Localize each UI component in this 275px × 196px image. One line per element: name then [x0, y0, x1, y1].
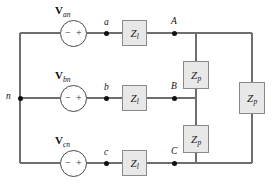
voltage-source-vbn-label: Vbn — [55, 70, 70, 81]
vcn-symbol: V — [55, 134, 63, 146]
node-dot-a — [104, 31, 109, 36]
impedance-box-zp-ca: Zp — [239, 82, 265, 114]
voltage-source-vcn-label: Vcn — [55, 135, 70, 146]
node-label-load-b: B — [171, 82, 177, 92]
node-dot-neutral — [18, 96, 23, 101]
voltage-source-van: − + — [60, 20, 87, 47]
node-label-b: b — [104, 83, 109, 93]
node-label-a: a — [104, 18, 109, 28]
circuit-diagram: − + Van − + Vbn − + Vcn Zl Zl Zl Zp — [0, 0, 275, 196]
zp-ca-label: Zp — [247, 93, 257, 104]
impedance-box-zl-b: Zl — [122, 85, 147, 111]
zp-ab-label: Zp — [191, 70, 201, 81]
impedance-box-zp-ab: Zp — [183, 61, 209, 89]
zl-b-label: Zl — [130, 93, 138, 104]
vcn-minus-sign: − — [65, 158, 71, 168]
zl-a-symbol: Z — [130, 27, 136, 39]
impedance-box-zl-a: Zl — [122, 20, 147, 46]
node-dot-c — [104, 161, 109, 166]
node-label-neutral: n — [6, 92, 11, 102]
zp-bc-label: Zp — [191, 134, 201, 145]
vbn-symbol: V — [55, 69, 63, 81]
vcn-plus-sign: + — [76, 158, 82, 168]
van-subscript: an — [63, 10, 71, 19]
node-label-load-a: A — [171, 17, 177, 27]
zl-a-label: Zl — [130, 28, 138, 39]
voltage-source-van-label: Van — [55, 5, 70, 16]
zl-c-symbol: Z — [130, 157, 136, 169]
zl-b-symbol: Z — [130, 92, 136, 104]
node-dot-b — [104, 96, 109, 101]
van-plus-sign: + — [76, 28, 82, 38]
impedance-box-zl-c: Zl — [122, 150, 147, 176]
zl-b-subscript: l — [137, 97, 139, 106]
vbn-minus-sign: − — [65, 93, 71, 103]
van-symbol: V — [55, 4, 63, 16]
vbn-subscript: bn — [63, 75, 71, 84]
node-label-c: c — [104, 148, 108, 158]
voltage-source-vbn: − + — [60, 85, 87, 112]
zp-ca-subscript: p — [253, 97, 257, 106]
node-label-load-c: C — [171, 147, 177, 157]
node-dot-load-c — [172, 161, 177, 166]
van-minus-sign: − — [65, 28, 71, 38]
vcn-subscript: cn — [63, 140, 70, 149]
zl-a-subscript: l — [137, 32, 139, 41]
zl-c-label: Zl — [130, 158, 138, 169]
voltage-source-vcn: − + — [60, 150, 87, 177]
node-dot-load-a — [172, 31, 177, 36]
zp-ab-subscript: p — [197, 74, 201, 83]
zl-c-subscript: l — [137, 162, 139, 171]
node-dot-load-b — [172, 96, 177, 101]
vbn-plus-sign: + — [76, 93, 82, 103]
impedance-box-zp-bc: Zp — [183, 125, 209, 153]
zp-bc-subscript: p — [197, 138, 201, 147]
